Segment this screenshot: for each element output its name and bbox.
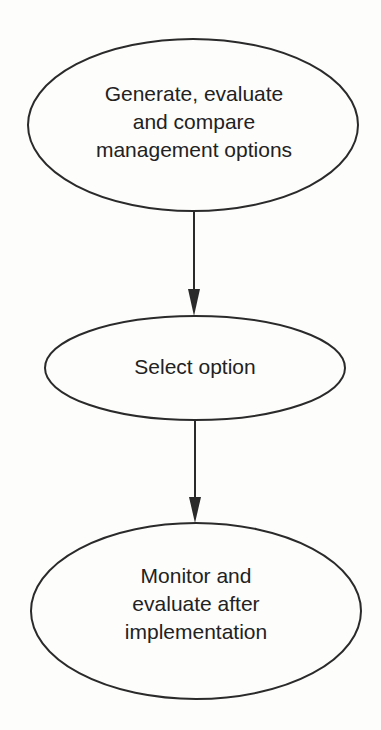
arrowhead-icon [189,497,201,523]
diagram-canvas: Generate, evaluate and compare managemen… [0,0,381,730]
node-monitor-line-2: evaluate after [125,590,267,618]
node-select-line-1: Select option [134,353,255,381]
node-monitor-label: Monitor and evaluate after implementatio… [125,562,267,646]
node-select-label: Select option [134,353,255,381]
node-generate-label: Generate, evaluate and compare managemen… [96,80,292,164]
arrowhead-icon [188,289,200,316]
node-generate-line-2: and compare [96,108,292,136]
node-monitor-line-1: Monitor and [125,562,267,590]
node-generate-line-1: Generate, evaluate [96,80,292,108]
node-monitor-line-3: implementation [125,618,267,646]
node-generate-line-3: management options [96,136,292,164]
